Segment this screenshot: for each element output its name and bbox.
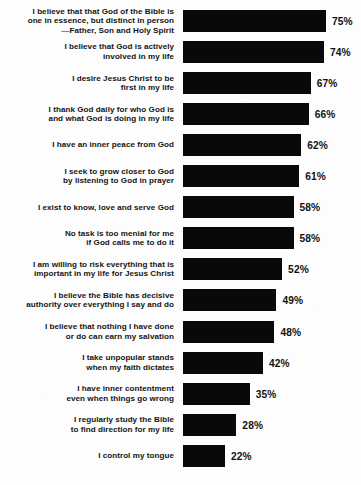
bar [183,321,274,343]
bar [183,445,225,467]
bar-value-label: 35% [256,388,277,399]
bar-value-label: 58% [300,233,321,244]
bar-value-label: 49% [282,295,303,306]
bar [183,10,326,32]
bar-category-label: I take unpopular stands when my faith di… [0,353,178,372]
bar [183,72,311,94]
bar [183,103,309,125]
chart-row: No task is too menial for me if God call… [0,227,361,249]
bar [183,227,294,249]
bar-category-label: I believe the Bible has decisive authori… [0,291,178,310]
chart-row: I believe the Bible has decisive authori… [0,289,361,311]
bar-category-label: I control my tongue [0,451,178,461]
bar-value-label: 75% [332,16,353,27]
bar-value-label: 42% [269,357,290,368]
bar [183,41,324,63]
bar-value-label: 52% [288,264,309,275]
bar-value-label: 62% [307,140,328,151]
bar-value-label: 48% [280,326,301,337]
chart-row: I am willing to risk everything that is … [0,258,361,280]
bar-value-label: 22% [231,450,252,461]
bar-value-label: 58% [300,202,321,213]
chart-row: I have an inner peace from God62% [0,134,361,156]
bar-value-label: 61% [305,171,326,182]
chart-row: I desire Jesus Christ to be first in my … [0,72,361,94]
bar-category-label: I regularly study the Bible to find dire… [0,415,178,434]
bar-category-label: I believe that that God of the Bible is … [0,7,178,36]
horizontal-bar-chart: I believe that that God of the Bible is … [0,0,361,485]
bar-category-label: I desire Jesus Christ to be first in my … [0,74,178,93]
bar [183,352,263,374]
bar-value-label: 67% [317,78,338,89]
chart-row: I believe that God is actively involved … [0,41,361,63]
bar-category-label: I have an inner peace from God [0,140,178,150]
bar [183,383,250,405]
bar [183,165,299,187]
chart-row: I believe that nothing I have done or do… [0,321,361,343]
bar-category-label: I thank God daily for who God is and wha… [0,105,178,124]
bar-value-label: 28% [242,419,263,430]
bar-category-label: I exist to know, love and serve God [0,203,178,213]
bar-category-label: I seek to grow closer to God by listenin… [0,167,178,186]
chart-row: I control my tongue22% [0,445,361,467]
bar-category-label: I am willing to risk everything that is … [0,260,178,279]
chart-row: I take unpopular stands when my faith di… [0,352,361,374]
chart-row: I seek to grow closer to God by listenin… [0,165,361,187]
bar [183,196,294,218]
bar-category-label: I believe that God is actively involved … [0,42,178,61]
chart-row: I regularly study the Bible to find dire… [0,414,361,436]
bar [183,258,282,280]
bar-category-label: I have inner contentment even when thing… [0,384,178,403]
bar-value-label: 74% [330,47,351,58]
bar [183,289,276,311]
chart-row: I thank God daily for who God is and wha… [0,103,361,125]
bar [183,414,236,436]
chart-row: I have inner contentment even when thing… [0,383,361,405]
chart-row: I believe that that God of the Bible is … [0,10,361,32]
bar-category-label: I believe that nothing I have done or do… [0,322,178,341]
bar-value-label: 66% [315,109,336,120]
bar [183,134,301,156]
bar-category-label: No task is too menial for me if God call… [0,229,178,248]
chart-row: I exist to know, love and serve God58% [0,196,361,218]
